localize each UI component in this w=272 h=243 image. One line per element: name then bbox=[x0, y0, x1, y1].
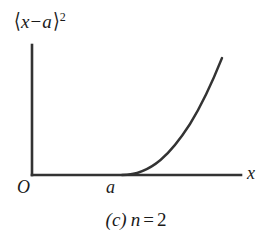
y-axis-label-exponent: 2 bbox=[60, 10, 66, 24]
y-axis-label-constant: a bbox=[42, 11, 52, 32]
y-axis-label: ⟨x−a⟩2 bbox=[13, 11, 66, 32]
caption-equals: = bbox=[143, 209, 154, 230]
figure-caption: (c)n=2 bbox=[0, 209, 272, 231]
angle-bracket-open-icon: ⟨ bbox=[14, 11, 21, 32]
y-axis-label-operator: − bbox=[29, 11, 42, 32]
caption-symbol: n bbox=[131, 209, 141, 230]
figure-panel: ⟨x−a⟩2 O a x (c)n=2 bbox=[0, 0, 272, 243]
x-tick-label-a: a bbox=[106, 178, 115, 196]
curve-quadratic bbox=[122, 58, 222, 175]
origin-label: O bbox=[17, 178, 30, 196]
caption-index: (c) bbox=[106, 209, 127, 230]
plot-canvas bbox=[0, 0, 272, 243]
caption-value: 2 bbox=[157, 209, 167, 230]
x-axis-label: x bbox=[247, 164, 255, 182]
angle-bracket-close-icon: ⟩ bbox=[52, 11, 59, 32]
